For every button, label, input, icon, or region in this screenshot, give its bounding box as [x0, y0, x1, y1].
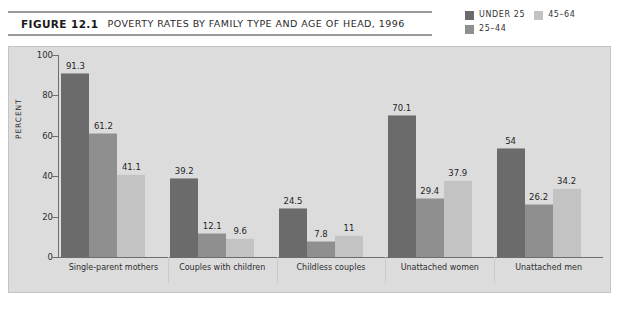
figure-title: POVERTY RATES BY FAMILY TYPE AND AGE OF … [107, 18, 404, 29]
y-axis-tickmark-20 [52, 217, 58, 218]
chart-legend: UNDER 25 45–64 25–44 [465, 8, 615, 36]
bar[interactable] [279, 208, 307, 257]
bar[interactable] [388, 115, 416, 257]
bar[interactable] [89, 133, 117, 257]
bar[interactable] [525, 204, 553, 257]
bar[interactable] [198, 233, 226, 257]
bars-region: 91.361.241.139.212.19.624.57.81170.129.4… [59, 55, 603, 257]
bar-value-label: 61.2 [94, 121, 113, 131]
y-axis-tickmark-0 [52, 257, 58, 258]
y-axis-tick-80: 80 [27, 90, 53, 100]
bar-value-label: 34.2 [557, 176, 576, 186]
bar[interactable] [416, 198, 444, 257]
bar-group: 5426.234.2 [494, 55, 603, 257]
legend-label-25-44: 25–44 [479, 25, 506, 33]
legend-entry-45-64: 45–64 [534, 11, 575, 20]
x-axis-label-4: Unattached men [515, 263, 582, 272]
y-axis-tick-40: 40 [27, 171, 53, 181]
legend-swatch-icon-45-64 [534, 11, 543, 20]
bar[interactable] [553, 188, 581, 257]
y-axis-tick-20: 20 [27, 212, 53, 222]
y-axis-label: PERCENT [14, 127, 23, 139]
bar[interactable] [444, 180, 472, 257]
bar[interactable] [117, 174, 145, 257]
x-axis-label-3: Unattached women [401, 263, 479, 272]
x-axis-label-1: Couples with children [179, 263, 265, 272]
figure-title-band: FIGURE 12.1 POVERTY RATES BY FAMILY TYPE… [8, 11, 432, 36]
bar-value-label: 26.2 [529, 192, 548, 202]
bar-value-label: 91.3 [66, 61, 85, 71]
bar-value-label: 9.6 [233, 226, 247, 236]
group-separator [277, 257, 278, 283]
y-axis-tick-100: 100 [27, 50, 53, 60]
bar[interactable] [497, 148, 525, 257]
bar[interactable] [307, 241, 335, 257]
bar-value-label: 37.9 [448, 168, 467, 178]
figure-container: FIGURE 12.1 POVERTY RATES BY FAMILY TYPE… [0, 0, 619, 310]
legend-row-top: UNDER 25 45–64 [465, 8, 615, 22]
bar[interactable] [170, 178, 198, 257]
legend-swatch-icon-under-25 [465, 11, 474, 20]
legend-label-under-25: UNDER 25 [479, 11, 525, 19]
legend-label-45-64: 45–64 [548, 11, 575, 19]
figure-number: FIGURE 12.1 [21, 18, 98, 30]
bar-value-label: 70.1 [392, 103, 411, 113]
bar-value-label: 54 [505, 136, 516, 146]
bar-value-label: 7.8 [314, 229, 328, 239]
bar[interactable] [335, 235, 363, 257]
legend-entry-under-25: UNDER 25 [465, 11, 525, 20]
y-axis-tick-labels: 020406080100 [27, 55, 53, 257]
x-axis-label-0: Single-parent mothers [69, 263, 159, 272]
figure-header: FIGURE 12.1 POVERTY RATES BY FAMILY TYPE… [0, 0, 619, 46]
legend-swatch-icon-25-44 [465, 25, 474, 34]
y-axis-tick-60: 60 [27, 131, 53, 141]
x-axis-category-labels: Single-parent mothersCouples with childr… [59, 263, 603, 285]
group-separator [385, 257, 386, 283]
bar-group: 91.361.241.1 [59, 55, 168, 257]
chart-plot-panel: PERCENT 020406080100 91.361.241.139.212.… [8, 46, 611, 293]
y-axis-tickmark-60 [52, 136, 58, 137]
y-axis-tick-0: 0 [27, 252, 53, 262]
bar-group: 24.57.811 [277, 55, 386, 257]
bar-value-label: 41.1 [122, 162, 141, 172]
legend-entry-25-44: 25–44 [465, 25, 506, 34]
legend-row-bottom: 25–44 [465, 22, 615, 36]
bar[interactable] [226, 238, 254, 257]
y-axis-tickmark-40 [52, 176, 58, 177]
bar-value-label: 12.1 [203, 221, 222, 231]
bar-group: 39.212.19.6 [168, 55, 277, 257]
bar-value-label: 11 [344, 223, 355, 233]
group-separator [168, 257, 169, 283]
bar-group: 70.129.437.9 [385, 55, 494, 257]
group-separator [494, 257, 495, 283]
y-axis-tickmark-100 [52, 55, 58, 56]
x-axis-label-2: Childless couples [297, 263, 366, 272]
x-axis-line [58, 257, 603, 258]
y-axis-tickmark-80 [52, 95, 58, 96]
bar-value-label: 24.5 [284, 196, 303, 206]
bar-value-label: 29.4 [420, 186, 439, 196]
chart-plot-inner: PERCENT 020406080100 91.361.241.139.212.… [9, 47, 610, 292]
bar[interactable] [61, 73, 89, 257]
bar-value-label: 39.2 [175, 166, 194, 176]
